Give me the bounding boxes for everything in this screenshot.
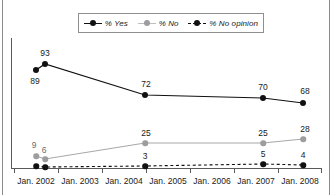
data-label-yes-3: 72 [141,79,150,89]
plot-area: Jan. 2002 Jan. 2003 Jan. 2004 Jan. 2005 … [0,0,333,195]
data-label-no-5: 28 [300,124,309,134]
data-label-yes-1: 89 [30,76,39,86]
data-point-no-opinion-5[interactable] [300,162,306,168]
x-axis-label-1: Jan. 2003 [61,176,98,186]
x-axis-label-5: Jan. 2007 [237,176,274,186]
data-point-no-opinion-2[interactable] [42,164,48,170]
x-tick-4 [190,169,191,173]
data-point-no-2[interactable] [42,156,48,162]
chart-figure: % Yes % No % No opinion [0,0,333,195]
data-point-no-4[interactable] [260,140,266,146]
data-point-no-opinion-4[interactable] [260,161,266,167]
x-tick-7 [321,169,322,173]
data-point-no-1[interactable] [33,153,39,159]
x-axis-label-3: Jan. 2005 [149,176,186,186]
data-point-yes-5[interactable] [300,100,306,106]
x-tick-1 [58,169,59,173]
data-point-no-opinion-1[interactable] [33,163,39,169]
data-point-yes-3[interactable] [142,92,148,98]
data-label-no-opinion-3: 3 [143,151,148,161]
x-tick-0 [14,169,15,173]
data-label-no-3: 25 [141,128,150,138]
x-tick-3 [146,169,147,173]
data-label-no-1: 9 [32,140,37,150]
x-tick-5 [234,169,235,173]
data-point-yes-1[interactable] [33,67,39,73]
data-label-no-opinion-4: 5 [261,149,266,159]
data-point-yes-2[interactable] [42,61,48,67]
x-tick-2 [102,169,103,173]
x-axis-label-2: Jan. 2004 [105,176,142,186]
series-lines [0,0,333,195]
data-label-no-opinion-5: 4 [301,150,306,160]
data-label-yes-4: 70 [258,82,267,92]
data-point-yes-4[interactable] [260,95,266,101]
x-axis-label-4: Jan. 2006 [193,176,230,186]
data-label-no-4: 25 [258,128,267,138]
data-label-yes-2: 93 [40,48,49,58]
x-tick-6 [278,169,279,173]
data-point-no-opinion-3[interactable] [142,163,148,169]
x-axis-label-6: Jan. 2008 [281,176,318,186]
data-label-yes-5: 68 [300,86,309,96]
data-point-no-5[interactable] [300,136,306,142]
x-axis-label-0: Jan. 2002 [17,176,54,186]
data-point-no-3[interactable] [142,140,148,146]
data-label-no-2: 6 [42,145,47,155]
